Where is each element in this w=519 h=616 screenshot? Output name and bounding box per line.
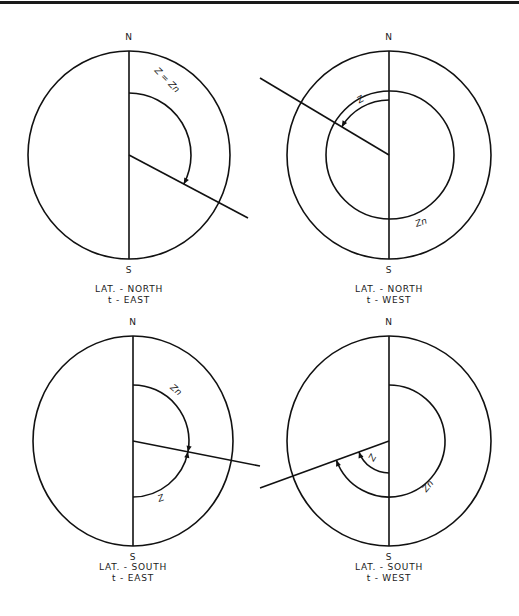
zn-arc: [133, 385, 189, 452]
azimuth-diagram: NSLAT. - NORTHt - EASTZ = ZnNSLAT. - NOR…: [0, 0, 519, 616]
south-label: S: [386, 552, 392, 562]
z-equals-zn-label: Z = Zn: [152, 65, 182, 95]
north-label: N: [129, 317, 136, 327]
z-label: Z: [155, 492, 166, 504]
south-label: S: [130, 552, 136, 562]
z-arc: [342, 100, 389, 127]
latitude-caption: LAT. - SOUTH: [355, 562, 423, 572]
zn-label: Zn: [419, 478, 435, 495]
latitude-caption: LAT. - NORTH: [95, 284, 163, 294]
hour-angle-caption: t - EAST: [112, 573, 154, 583]
zn-label: Zn: [167, 381, 184, 397]
hour-angle-caption: t - WEST: [367, 295, 412, 305]
hour-angle-caption: t - WEST: [367, 573, 412, 583]
north-label: N: [125, 32, 132, 42]
arrowhead-icon: [184, 452, 189, 458]
zn-label: Zn: [413, 215, 429, 229]
arrowhead-icon: [336, 460, 341, 467]
arrowhead-icon: [359, 452, 364, 459]
zn-circle: [326, 91, 454, 219]
azimuth-spoke: [260, 441, 389, 488]
azimuth-spoke: [133, 441, 260, 466]
latitude-caption: LAT. - SOUTH: [99, 562, 167, 572]
north-label: N: [385, 32, 392, 42]
panel-lat-south-t-west: NSLAT. - SOUTHt - WESTZZn: [260, 317, 491, 583]
z-equals-zn-arc: [129, 93, 191, 184]
latitude-caption: LAT. - NORTH: [355, 284, 423, 294]
panel-lat-north-t-west: NSLAT. - NORTHt - WESTZnZ: [260, 32, 491, 305]
z-label: Z: [366, 452, 379, 464]
panel-lat-south-t-east: NSLAT. - SOUTHt - EASTZnZ: [33, 317, 260, 583]
hour-angle-caption: t - EAST: [108, 295, 150, 305]
panel-lat-north-t-east: NSLAT. - NORTHt - EASTZ = Zn: [28, 32, 248, 305]
z-arc: [133, 452, 188, 497]
south-label: S: [126, 265, 132, 275]
south-label: S: [386, 265, 392, 275]
north-label: N: [385, 317, 392, 327]
azimuth-spoke: [260, 78, 389, 155]
z-label: Z: [354, 93, 366, 106]
